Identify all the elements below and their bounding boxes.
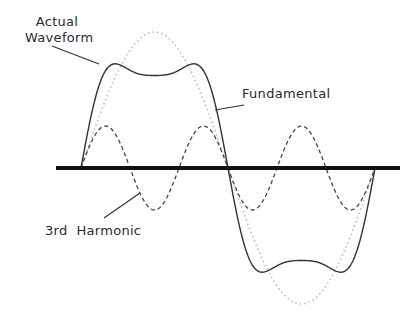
actual-waveform-label: Actual Waveform [25,14,89,46]
waveform-diagram [0,0,413,322]
fundamental-label: Fundamental [242,86,330,102]
third-harmonic-label: 3rd Harmonic [45,223,141,239]
harmonic-leader-line [104,193,140,218]
actual-leader-line [52,46,99,64]
fundamental-leader-line [215,105,244,110]
actual-label-line2: Waveform [25,30,89,46]
actual-label-line1: Actual [25,14,89,30]
